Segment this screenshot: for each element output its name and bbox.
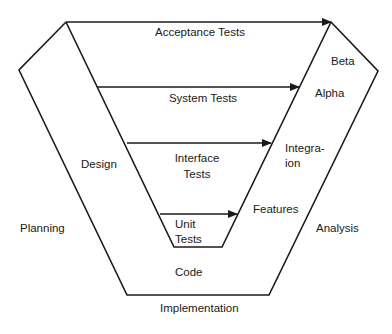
unit-tests-line2: Tests: [175, 232, 202, 246]
interface-tests-line1: Interface: [175, 151, 220, 165]
analysis-label: Analysis: [316, 221, 359, 235]
interface-tests-line2: Tests: [175, 167, 220, 181]
features-label: Features: [253, 202, 298, 216]
system-tests-label: System Tests: [169, 91, 237, 105]
unit-tests-line1: Unit: [175, 217, 202, 231]
integration-line2: ion: [285, 156, 325, 170]
interface-tests-label: Interface Tests: [175, 151, 220, 181]
integration-label: Integra- ion: [285, 141, 325, 170]
code-label: Code: [175, 265, 203, 279]
design-label: Design: [81, 157, 117, 171]
unit-tests-label: Unit Tests: [175, 217, 202, 246]
integration-line1: Integra-: [285, 141, 325, 155]
acceptance-tests-label: Acceptance Tests: [155, 25, 245, 39]
implementation-label: Implementation: [160, 301, 239, 315]
beta-label: Beta: [331, 54, 355, 68]
alpha-label: Alpha: [315, 86, 344, 100]
planning-label: Planning: [20, 221, 65, 235]
